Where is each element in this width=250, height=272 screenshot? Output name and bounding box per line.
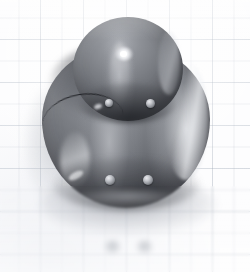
- dome-specular-core: [120, 51, 127, 57]
- stud-body-right: [143, 175, 153, 185]
- depth-of-field-blur-top: [0, 0, 250, 40]
- photograph-canvas: [0, 0, 250, 272]
- stud-body-left: [105, 175, 115, 185]
- depth-of-field-blur-bottom: [0, 186, 250, 272]
- stud-dome-left: [105, 99, 113, 107]
- stud-dome-right: [146, 99, 155, 108]
- dome-right-rim-highlight: [158, 31, 180, 95]
